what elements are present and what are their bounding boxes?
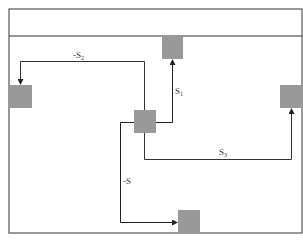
- node-top: [162, 37, 183, 59]
- direction-diagram: -S2 S1 S3 -S: [0, 0, 303, 249]
- label-neg-s: -S: [123, 176, 131, 186]
- node-left: [10, 85, 32, 108]
- node-right: [280, 85, 301, 108]
- node-bottom: [178, 210, 200, 232]
- node-center: [134, 110, 156, 133]
